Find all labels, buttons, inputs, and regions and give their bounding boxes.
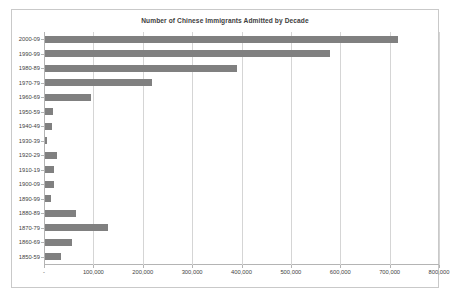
y-axis-category-label: 1980-89 — [19, 65, 40, 71]
y-axis-category-label: 1960-69 — [19, 94, 40, 100]
y-axis-category-label: 1950-59 — [19, 109, 40, 115]
y-axis-tick — [41, 213, 44, 214]
bar[interactable] — [45, 239, 72, 246]
bar[interactable] — [45, 79, 152, 86]
y-axis-category-label: 1930-39 — [19, 138, 40, 144]
x-axis-tick-label: 600,000 — [330, 269, 351, 275]
bar-row: 1920-29 — [44, 148, 439, 163]
bar[interactable] — [45, 123, 52, 130]
y-axis-category-label: 1850-59 — [19, 254, 40, 260]
x-axis-tick-label: 300,000 — [182, 269, 203, 275]
bar-row: 1890-99 — [44, 192, 439, 207]
x-axis-tick-label: 500,000 — [280, 269, 301, 275]
bar-row: 1930-39 — [44, 134, 439, 149]
bar-row: 1980-89 — [44, 61, 439, 76]
y-axis-category-label: 1860-69 — [19, 239, 40, 245]
bar[interactable] — [45, 224, 108, 231]
y-axis-tick — [41, 141, 44, 142]
y-axis-tick — [41, 68, 44, 69]
bar[interactable] — [45, 65, 237, 72]
x-axis-tick — [242, 265, 243, 268]
x-axis-tick — [439, 265, 440, 268]
bar-row: 1940-49 — [44, 119, 439, 134]
y-axis-tick — [41, 155, 44, 156]
chart-container: Number of Chinese Immigrants Admitted by… — [11, 9, 439, 288]
bar-rows: 2000-091990-991980-891970-791960-691950-… — [44, 32, 439, 264]
y-axis-category-label: 1870-79 — [19, 225, 40, 231]
x-axis-tick-label: 100,000 — [83, 269, 104, 275]
y-axis-tick — [41, 257, 44, 258]
y-axis-category-label: 1920-29 — [19, 152, 40, 158]
bar[interactable] — [45, 152, 57, 159]
bar[interactable] — [45, 210, 76, 217]
y-axis-category-label: 1880-89 — [19, 210, 40, 216]
bar[interactable] — [45, 166, 54, 173]
y-axis-tick — [41, 228, 44, 229]
x-axis-tick — [93, 265, 94, 268]
y-axis-tick — [41, 126, 44, 127]
y-axis-category-label: 1890-99 — [19, 196, 40, 202]
bar-row: 2000-09 — [44, 32, 439, 47]
x-axis-tick — [291, 265, 292, 268]
y-axis-tick — [41, 184, 44, 185]
y-axis-category-label: 2000-09 — [19, 36, 40, 42]
bar-row: 1870-79 — [44, 221, 439, 236]
x-axis-tick-label: 700,000 — [379, 269, 400, 275]
bar[interactable] — [45, 253, 61, 260]
x-axis-tick-label: 200,000 — [132, 269, 153, 275]
plot-area: 2000-091990-991980-891970-791960-691950-… — [44, 32, 439, 265]
y-axis-category-label: 1940-49 — [19, 123, 40, 129]
x-axis-tick — [44, 265, 45, 268]
x-axis-tick-label: 800,000 — [429, 269, 450, 275]
bar-row: 1990-99 — [44, 47, 439, 62]
bar-row: 1950-59 — [44, 105, 439, 120]
x-axis-tick — [192, 265, 193, 268]
bar-row: 1910-19 — [44, 163, 439, 178]
bar-row: 1960-69 — [44, 90, 439, 105]
bar[interactable] — [45, 36, 398, 43]
chart-title: Number of Chinese Immigrants Admitted by… — [12, 17, 438, 24]
y-axis-tick — [41, 112, 44, 113]
bar-row: 1970-79 — [44, 76, 439, 91]
x-axis-tick-label: 400,000 — [231, 269, 252, 275]
x-axis-labels: -100,000200,000300,000400,000500,000600,… — [44, 269, 439, 281]
y-axis-tick — [41, 39, 44, 40]
bar-row: 1900-09 — [44, 177, 439, 192]
x-axis-tick — [340, 265, 341, 268]
bar[interactable] — [45, 137, 47, 144]
y-axis-tick — [41, 97, 44, 98]
y-axis-category-label: 1910-19 — [19, 167, 40, 173]
x-axis-tick-label: - — [43, 269, 45, 275]
y-axis-tick — [41, 170, 44, 171]
bar[interactable] — [45, 181, 54, 188]
y-axis-tick — [41, 242, 44, 243]
bar-row: 1880-89 — [44, 206, 439, 221]
y-axis-category-label: 1900-09 — [19, 181, 40, 187]
bar[interactable] — [45, 50, 330, 57]
bar[interactable] — [45, 94, 91, 101]
y-axis-tick — [41, 199, 44, 200]
bar-row: 1860-69 — [44, 235, 439, 250]
y-axis-tick — [41, 54, 44, 55]
y-axis-category-label: 1990-99 — [19, 51, 40, 57]
y-axis-category-label: 1970-79 — [19, 80, 40, 86]
x-axis-tick — [143, 265, 144, 268]
bar[interactable] — [45, 108, 53, 115]
bar-row: 1850-59 — [44, 250, 439, 265]
bar[interactable] — [45, 195, 51, 202]
y-axis-tick — [41, 83, 44, 84]
gridline — [439, 32, 440, 265]
x-axis-tick — [390, 265, 391, 268]
